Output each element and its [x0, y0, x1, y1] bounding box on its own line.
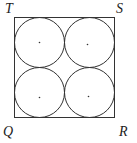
circle-top-right — [65, 18, 115, 68]
label-r: R — [119, 125, 128, 139]
circle-bottom-right — [65, 68, 115, 118]
square-qrst — [15, 18, 115, 118]
center-dot-bottom-right — [88, 96, 90, 98]
center-dot-bottom-left — [39, 97, 41, 99]
label-s: S — [116, 2, 123, 16]
circle-bottom-left — [15, 68, 65, 118]
label-t: T — [5, 2, 13, 16]
geometry-figure — [0, 0, 137, 143]
center-dot-top-right — [87, 44, 89, 46]
center-dot-top-left — [39, 42, 41, 44]
label-q: Q — [3, 125, 13, 139]
